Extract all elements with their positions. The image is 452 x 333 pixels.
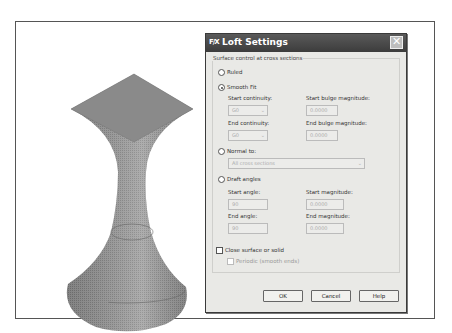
close-icon[interactable]: ✕ xyxy=(390,36,403,49)
end-angle-input[interactable]: 90 xyxy=(228,223,268,234)
normal-to-label: Normal to: xyxy=(227,148,256,154)
group-label: Surface control at cross sections xyxy=(212,55,303,61)
cancel-button[interactable]: Cancel xyxy=(311,290,351,302)
end-continuity-select[interactable]: G0 ⌄ xyxy=(228,130,268,141)
end-bulge-label: End bulge magnitude: xyxy=(306,120,367,126)
dialog-title: Loft Settings xyxy=(222,37,288,47)
lofted-solid-illustration xyxy=(56,62,216,332)
periodic-checkbox[interactable] xyxy=(227,258,234,265)
start-continuity-select[interactable]: G0 ⌄ xyxy=(228,105,268,116)
end-bulge-input[interactable]: 0.0000 xyxy=(306,130,338,141)
start-angle-label: Start angle: xyxy=(228,189,260,195)
draft-angles-label: Draft angles xyxy=(227,176,261,182)
normal-to-radio[interactable] xyxy=(218,148,225,155)
ruled-label: Ruled xyxy=(227,69,242,75)
chevron-down-icon: ⌄ xyxy=(261,131,265,140)
close-surface-label: Close surface or solid xyxy=(225,247,284,253)
end-continuity-label: End continuity: xyxy=(228,120,269,126)
start-bulge-label: Start bulge magnitude: xyxy=(306,95,370,101)
ruled-radio[interactable] xyxy=(218,69,225,76)
chevron-down-icon: ⌄ xyxy=(358,159,362,168)
end-magnitude-label: End magnitude: xyxy=(306,213,350,219)
draft-angles-radio[interactable] xyxy=(218,176,225,183)
app-icon: F/X xyxy=(209,38,219,46)
periodic-label: Periodic (smooth ends) xyxy=(236,258,299,264)
start-bulge-input[interactable]: 0.0000 xyxy=(306,105,338,116)
title-bar[interactable]: F/X Loft Settings ✕ xyxy=(206,34,406,52)
start-angle-input[interactable]: 90 xyxy=(228,199,268,210)
loft-settings-dialog: F/X Loft Settings ✕ Surface control at c… xyxy=(205,33,407,313)
normal-to-select[interactable]: All cross sections ⌄ xyxy=(228,158,365,169)
start-magnitude-label: Start magnitude: xyxy=(306,189,353,195)
smooth-fit-radio[interactable] xyxy=(218,84,225,91)
help-button[interactable]: Help xyxy=(359,290,399,302)
start-magnitude-input[interactable]: 0.0000 xyxy=(306,199,344,210)
smooth-fit-label: Smooth Fit xyxy=(227,84,256,90)
top-square-face xyxy=(71,74,193,142)
chevron-down-icon: ⌄ xyxy=(261,106,265,115)
end-angle-label: End angle: xyxy=(228,213,257,219)
ok-button[interactable]: OK xyxy=(263,290,303,302)
close-surface-checkbox[interactable] xyxy=(216,247,223,254)
start-continuity-label: Start continuity: xyxy=(228,95,272,101)
end-magnitude-input[interactable]: 0.0000 xyxy=(306,223,344,234)
